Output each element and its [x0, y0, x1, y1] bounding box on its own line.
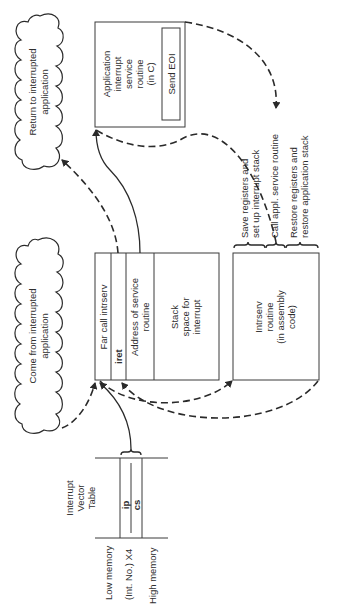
intrserv-step-labels: Save registers and set up interrupt stac…: [239, 134, 310, 238]
intrserv-line-2: routine: [264, 302, 275, 331]
come-from-cloud: Come from interrupted application: [15, 238, 63, 433]
intrserv-line-1: Intrserv: [253, 301, 264, 333]
application-isr-box: Application interrupt service routine (i…: [95, 22, 185, 127]
return-cloud-line-2: application: [39, 69, 50, 114]
ivt-entry-brace: [121, 449, 141, 455]
app-isr-return-arrow: [185, 22, 276, 108]
cs-cell: cs: [131, 500, 142, 511]
ivt-title-line-3: Table: [86, 487, 97, 510]
iret-cell: iret: [113, 348, 124, 364]
intrserv-line-3: (in assembly: [275, 290, 286, 344]
intrserv-line-4: code): [286, 305, 297, 329]
app-isr-line-4: routine: [134, 59, 145, 88]
app-isr-line-2: interrupt: [112, 56, 123, 91]
stack-block: Far call intrserv iret Address of servic…: [95, 253, 219, 380]
ivt-to-farcall-arrow: [100, 383, 131, 449]
app-isr-line-3: service: [123, 59, 134, 89]
come-from-to-farcall-arrow: [62, 383, 95, 428]
ivt-title-line-1: Interrupt: [64, 480, 75, 516]
intrserv-box: Intrserv routine (in assembly code): [233, 253, 319, 380]
stack-space-line-3: interrupt: [191, 299, 202, 334]
low-memory-label: Low memory: [103, 545, 114, 600]
iret-to-return-cloud-arrow: [62, 160, 118, 253]
return-cloud-line-1: Return to interrupted: [27, 48, 38, 135]
return-cloud: Return to interrupted application: [15, 14, 63, 169]
intrserv-step-braces: [234, 242, 318, 248]
address-cell-line-1: Address of service: [129, 278, 140, 356]
high-memory-label: High memory: [147, 547, 158, 604]
far-call-intrserv-cell: Far call intrserv: [98, 284, 109, 349]
come-from-cloud-line-2: application: [39, 313, 50, 358]
app-isr-line-1: Application: [101, 51, 112, 97]
interrupt-vector-table: ip cs Interrupt Vector Table Low memory …: [64, 449, 168, 604]
ivt-title-line-2: Vector: [75, 485, 86, 512]
come-from-cloud-line-1: Come from interrupted: [27, 288, 38, 383]
step-save-line-1: Save registers and: [239, 159, 250, 238]
step-restore-line-2: restore application stack: [299, 135, 310, 238]
stack-space-line-2: space for: [180, 297, 191, 336]
intrserv-to-iret-arrow: [122, 381, 318, 418]
stack-space-line-1: Stack: [169, 305, 180, 329]
address-cell-line-2: routine: [140, 302, 151, 331]
interrupt-flow-diagram: Return to interrupted application Come f…: [0, 0, 340, 609]
app-isr-line-5: (in C): [145, 62, 156, 85]
farcall-to-intrserv-arrow: [100, 381, 232, 403]
step-restore-line-1: Restore registers and: [288, 147, 299, 238]
step-call-line-1: Call appl. service routine: [269, 134, 280, 238]
step-save-line-2: set up interrupt stack: [250, 150, 261, 238]
int-no-x4-label: (Int. No.) X4: [123, 549, 134, 600]
send-eoi-label: Send EOI: [166, 53, 177, 94]
address-to-app-isr-arrow: [96, 130, 140, 253]
ip-cell: ip: [120, 501, 131, 510]
